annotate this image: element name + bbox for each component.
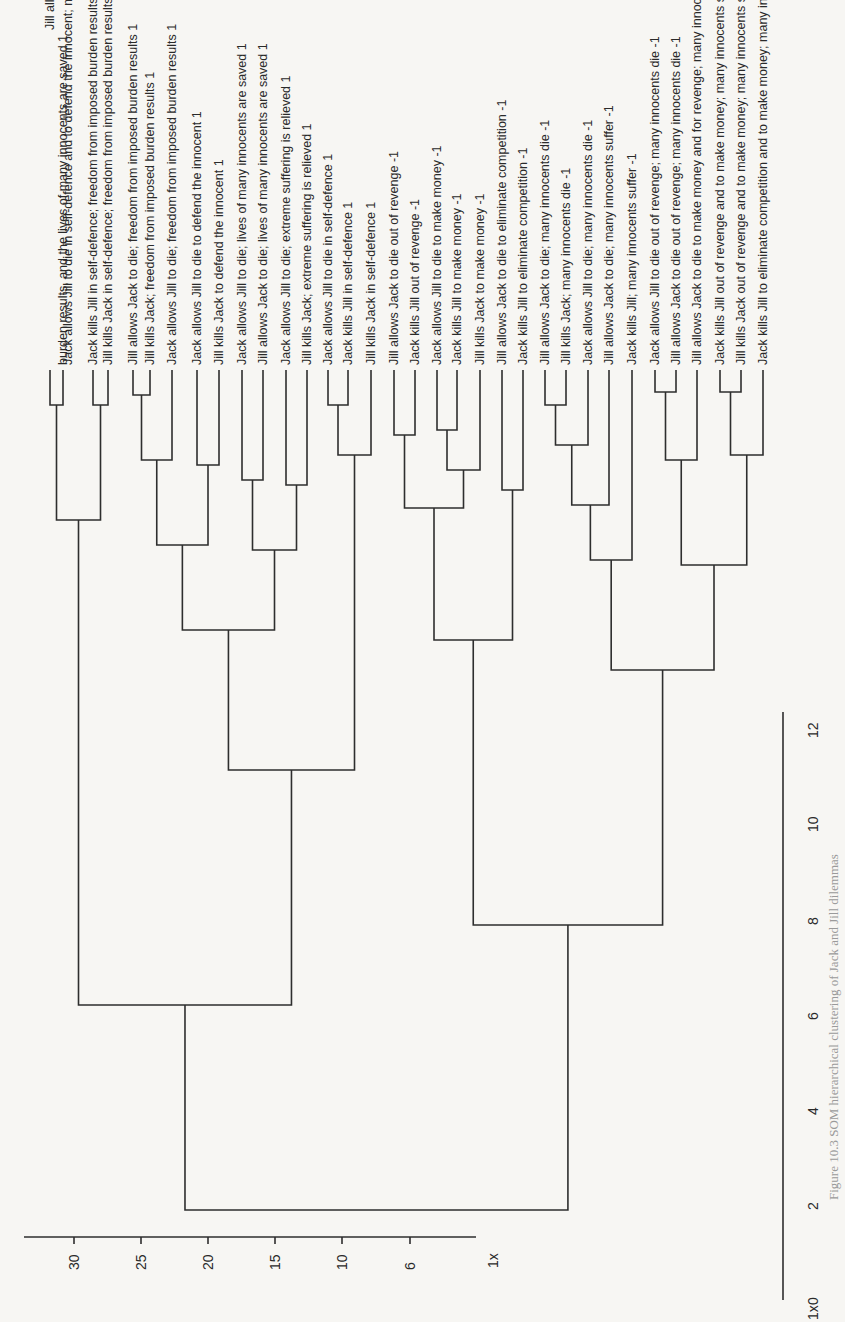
right-axis-tick: 0 — [805, 1297, 821, 1305]
leaf-label: Jill kills Jack; freedom from imposed bu… — [143, 72, 157, 365]
dendrogram-chart: Jill allows Jack to die to defend the in… — [0, 0, 845, 1322]
leaf-label: Jill allows Jack to die; freedom from im… — [126, 24, 140, 365]
figure-caption: Figure 10.3 SOM hierarchical clustering … — [826, 854, 841, 1200]
leaf-label: Jill allows Jack to die; many innocents … — [538, 120, 552, 365]
leaf-label: Jack kills Jill; many innocents suffer -… — [625, 153, 639, 365]
right-axis-tick: 2 — [805, 1202, 821, 1210]
leaf-label: Jill kills Jack; many innocents die -1 — [559, 168, 573, 365]
leaf-label: Jill allows Jack to die out of revenge; … — [669, 36, 683, 365]
leaf-label: Jill kills Jack; extreme suffering is re… — [300, 123, 314, 365]
dendrogram-tree — [50, 370, 763, 1210]
left-axis: 30252015106 1x — [24, 1237, 501, 1270]
leaf-label: Jack allows Jill to die out of revenge; … — [648, 36, 662, 365]
leaf-label: Jill allows Jack to die to eliminate com… — [495, 100, 509, 365]
left-axis-tick: 15 — [267, 1254, 283, 1270]
right-axis: 024681012 1x — [783, 712, 821, 1320]
leaf-label: Jill allows Jack to die; lives of many i… — [256, 43, 270, 365]
leaf-label: Jack kills Jill out of revenge and to ma… — [713, 0, 727, 365]
leaf-label: Jack allows Jill to die; freedom from im… — [165, 24, 179, 365]
leaf-label: Jill kills Jack in self-defence; freedom… — [101, 0, 115, 365]
leaf-label: Jack allows Jill to die to make money -1 — [430, 145, 444, 365]
leaf-label: Jack allows Jill to die; lives of many i… — [235, 43, 249, 365]
leaf-label: Jill allows Jack to die to make money an… — [690, 0, 704, 365]
leaf-label: Jill kills Jack to make money -1 — [473, 193, 487, 365]
right-axis-tick: 6 — [805, 1012, 821, 1020]
leaf-label: Jack kills Jill to eliminate competition… — [516, 148, 530, 365]
leaf-label: Jack allows Jill to die to defend the in… — [190, 111, 204, 365]
leaf-label: Jill allows Jack to die to defend the in… — [43, 0, 57, 30]
right-axis-tick: 8 — [805, 917, 821, 925]
leaf-label: Jack allows Jill to die; many innocents … — [581, 120, 595, 365]
leaf-label: Jack kills Jill to eliminate competition… — [756, 0, 770, 365]
right-axis-tick: 12 — [805, 722, 821, 738]
leaf-label: Jack allows Jill to die; extreme sufferi… — [279, 75, 293, 365]
left-axis-tick: 30 — [66, 1254, 82, 1270]
leaf-label: Jill kills Jack in self-defence 1 — [364, 202, 378, 365]
leaf-label: Jill kills Jack out of revenge and to ma… — [734, 0, 748, 365]
leaf-label: Jack kills Jill to make money -1 — [450, 193, 464, 365]
leaf-label: Jack kills Jill in self-defence 1 — [341, 202, 355, 365]
leaf-label: Jill kills Jack to defend the innocent 1 — [212, 159, 226, 365]
leaf-label: Jack kills Jill in self-defence; freedom… — [86, 0, 100, 365]
left-axis-label: 1x — [485, 1253, 501, 1268]
leaf-label: Jack allows Jill to die in self-defence … — [61, 0, 75, 365]
leaf-label: Jill allows Jack to die out of revenge -… — [387, 151, 401, 365]
leaf-label: Jack kills Jill out of revenge -1 — [408, 199, 422, 365]
right-axis-label: 1x — [805, 1305, 821, 1320]
leaf-label: Jack allows Jill to die in self-defence … — [321, 154, 335, 365]
left-axis-tick: 10 — [334, 1254, 350, 1270]
left-axis-tick: 20 — [200, 1254, 216, 1270]
right-axis-tick: 4 — [805, 1107, 821, 1115]
right-axis-tick: 10 — [805, 816, 821, 832]
left-axis-tick: 25 — [133, 1254, 149, 1270]
leaf-labels: Jill allows Jack to die to defend the in… — [43, 0, 770, 365]
left-axis-tick: 6 — [402, 1262, 418, 1270]
leaf-label: Jill allows Jack to die; many innocents … — [602, 105, 616, 365]
